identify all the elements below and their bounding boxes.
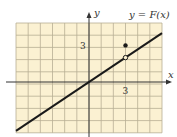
y-axis-label: y — [93, 7, 100, 18]
x-axis-label: x — [168, 69, 174, 80]
open-point — [123, 55, 127, 59]
x-axis-arrow-icon — [166, 80, 172, 85]
x-tick-label: 3 — [123, 86, 129, 96]
graph-title: y = F(x) — [128, 9, 170, 20]
y-axis-arrow-icon — [87, 12, 92, 18]
y-tick-label: 3 — [80, 41, 86, 51]
function-graph: y x y = F(x) 3 3 — [0, 0, 177, 137]
filled-point — [123, 43, 127, 47]
